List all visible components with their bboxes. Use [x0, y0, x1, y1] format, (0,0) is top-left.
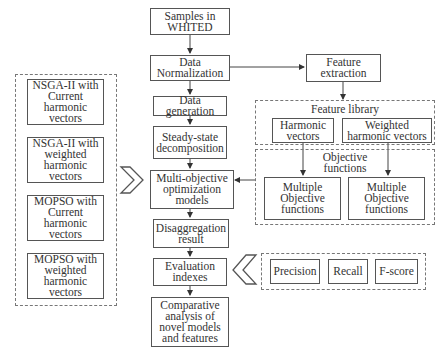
recall-box: Recall	[328, 259, 368, 284]
nsga-weighted-box: NSGA-II with weighted harmonic vectors	[27, 137, 104, 183]
chevron-left-icon	[233, 255, 256, 284]
comparative-box: Comparative analysis of novel models and…	[151, 297, 229, 347]
f-score-box: F-score	[375, 259, 418, 284]
feature-extraction-box: Feature extraction	[306, 54, 381, 82]
generation-box: Data generation	[153, 96, 227, 116]
mopso-weighted-box: MOPSO with weighted harmonic vectors	[27, 253, 104, 299]
evaluation-box: Evaluation indexes	[153, 258, 227, 286]
chevron-right-icon	[121, 167, 143, 193]
normalization-box: Data Normalization	[150, 55, 230, 81]
multiple-objective-functions-box-1: Multiple Objective functions	[264, 177, 341, 220]
weighted-harmonic-vectors-box: Weighted harmonic vectors	[342, 118, 432, 143]
multiple-objective-functions-box-2: Multiple Objective functions	[348, 177, 425, 220]
nsga-current-box: NSGA-II with Current harmonic vectors	[27, 79, 104, 125]
disaggregation-box: Disaggregation result	[153, 219, 229, 248]
objective-functions-title: Objective functions	[255, 152, 435, 174]
feature-library-title: Feature library	[255, 104, 435, 115]
harmonic-vectors-box: Harmonic vectors	[272, 118, 334, 143]
precision-box: Precision	[270, 259, 320, 284]
mopso-current-box: MOPSO with Current harmonic vectors	[27, 195, 104, 241]
samples-box: Samples in WHITED	[150, 8, 230, 35]
multi-objective-box: Multi-objective optimization models	[150, 170, 234, 209]
steady-state-box: Steady-state decomposition	[153, 126, 227, 159]
